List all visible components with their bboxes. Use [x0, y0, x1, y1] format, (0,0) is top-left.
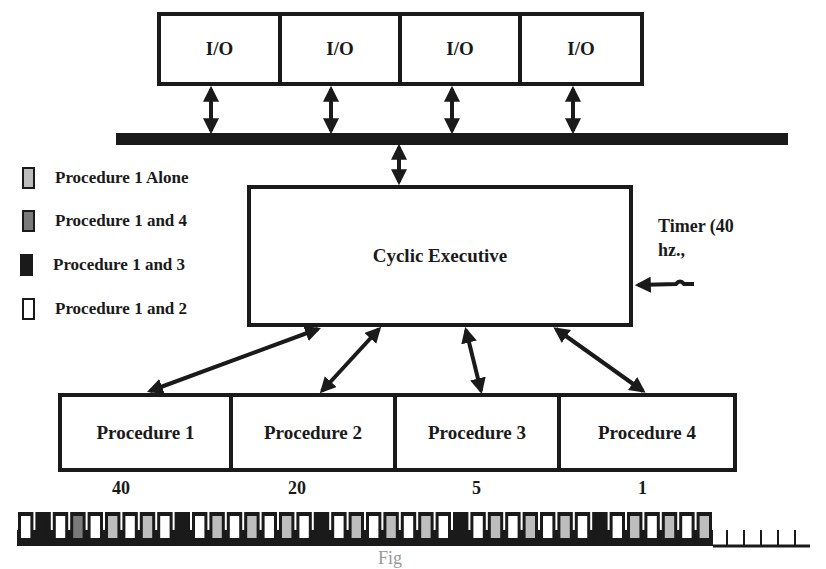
timeline-slot-fill	[125, 516, 134, 538]
timeline-slot-fill	[700, 516, 709, 538]
timeline-slot-fill	[230, 516, 239, 538]
timeline-slot-fill	[21, 516, 30, 538]
timeline-slot-fill	[108, 516, 117, 538]
timeline-slot-fill	[508, 516, 517, 538]
timeline-slot-fill	[143, 516, 152, 538]
timeline-slot-fill	[212, 516, 221, 538]
timeline-slot-fill	[473, 516, 482, 538]
timeline-slot-fill	[456, 516, 465, 538]
timeline-slot-fill	[38, 516, 47, 538]
timeline-slot-fill	[665, 516, 674, 538]
timeline-slot-fill	[595, 516, 604, 538]
timeline-slot-fill	[682, 516, 691, 538]
timeline-slot-fill	[352, 516, 361, 538]
timeline-slot-fill	[491, 516, 500, 538]
timeline-slot-fill	[647, 516, 656, 538]
timeline-slot-fill	[421, 516, 430, 538]
timeline-slot-fill	[369, 516, 378, 538]
timeline-slot-fill	[73, 516, 82, 538]
timeline-slot-fill	[404, 516, 413, 538]
timeline-slot-fill	[543, 516, 552, 538]
timeline-slot-fill	[56, 516, 65, 538]
timeline-slot-fill	[334, 516, 343, 538]
timeline-slot-fill	[160, 516, 169, 538]
timeline-slot-fill	[560, 516, 569, 538]
timeline-slot-fill	[91, 516, 100, 538]
timeline-slot-fill	[282, 516, 291, 538]
figure-caption: Fig	[378, 548, 402, 569]
timeline-slot-fill	[265, 516, 274, 538]
timeline-slot-fill	[178, 516, 187, 538]
timeline-slot-fill	[526, 516, 535, 538]
timeline-slot-fill	[317, 516, 326, 538]
timeline-slot-fill	[386, 516, 395, 538]
timeline-slot-fill	[630, 516, 639, 538]
timeline-slot-fill	[299, 516, 308, 538]
timeline-slot-fill	[578, 516, 587, 538]
timeline-slot-fill	[247, 516, 256, 538]
timeline-slot-fill	[613, 516, 622, 538]
timeline-slot-fill	[439, 516, 448, 538]
timeline-slot-fill	[195, 516, 204, 538]
